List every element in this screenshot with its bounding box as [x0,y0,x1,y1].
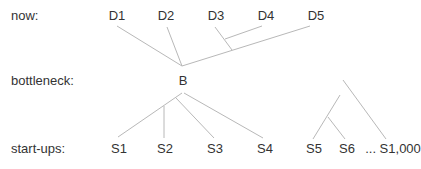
edge-s6 [328,117,345,139]
edge-s1000 [343,80,386,139]
edge-b-s4 [184,93,263,138]
edge-d3-branch [215,27,232,50]
edge-s5 [313,95,340,139]
edge-d4-branch [225,26,262,39]
edge-b-s3 [176,98,214,138]
tree-edges [0,0,421,169]
edge-d2-b [167,27,182,66]
edge-b-s1 [118,93,182,137]
edge-d1-b [117,26,182,66]
